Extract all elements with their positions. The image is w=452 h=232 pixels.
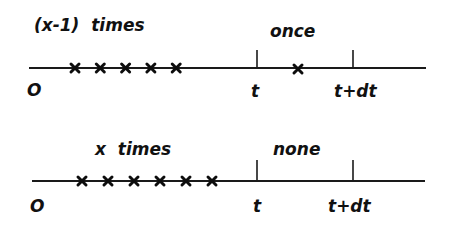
- origin-label-top: O: [27, 80, 41, 100]
- interval-label-top: once: [270, 21, 315, 41]
- tdt-label-bottom: t+dt: [328, 196, 372, 216]
- poisson-timeline-diagram: (x-1) times once O t t+dt x times none O…: [0, 0, 452, 232]
- interval-label-bottom: none: [273, 139, 320, 159]
- origin-label-bottom: O: [30, 196, 44, 216]
- tdt-label-top: t+dt: [334, 81, 378, 101]
- timeline-bottom: x times none O t t+dt: [30, 139, 425, 216]
- t-label-bottom: t: [253, 196, 262, 216]
- t-label-top: t: [251, 81, 260, 101]
- count-label-top: (x-1) times: [34, 15, 145, 35]
- timeline-top: (x-1) times once O t t+dt: [27, 15, 426, 101]
- count-label-bottom: x times: [94, 139, 171, 159]
